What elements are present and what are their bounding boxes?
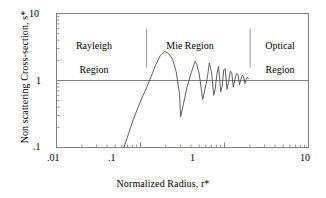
mie-region-line1: Mie Region	[166, 40, 214, 51]
x-axis-title: Normalized Radius, r*	[0, 178, 326, 189]
rayleigh-region-line1: Rayleigh	[76, 40, 112, 51]
mie-region-label: Mie Region	[145, 28, 235, 52]
x-tick-label-0-01: .01	[47, 152, 60, 163]
figure-container: Non scattering Cross-section, s* Normali…	[0, 0, 326, 198]
y-axis-title: Non scattering Cross-section, s*	[19, 11, 30, 144]
y-tick-label-1: 1	[36, 75, 41, 86]
x-tick-label-10: 10	[300, 152, 310, 163]
x-tick-label-1: 1	[190, 152, 195, 163]
rayleigh-region-line2: Region	[80, 64, 109, 75]
y-tick-label-10: 10	[29, 8, 39, 19]
y-axis-title-wrapper: Non scattering Cross-section, s*	[14, 2, 32, 152]
x-tick-label-0-1: .1	[108, 152, 116, 163]
optical-region-line2: Region	[266, 64, 295, 75]
optical-region-line1: Optical	[265, 40, 294, 51]
rayleigh-region-label: Rayleigh Region	[63, 28, 125, 76]
optical-region-label: Optical Region	[252, 28, 308, 76]
y-tick-label-0-1: .1	[33, 141, 41, 152]
